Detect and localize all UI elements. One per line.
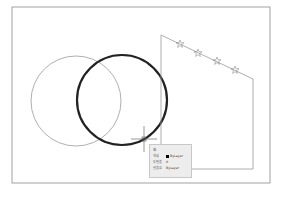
star-icon bbox=[231, 66, 239, 73]
star-markers bbox=[176, 40, 239, 73]
drawing-frame bbox=[12, 7, 270, 183]
selected-thick-circle[interactable] bbox=[77, 55, 167, 145]
drawing-canvas[interactable] bbox=[0, 0, 285, 199]
tooltip-label: 선종류 bbox=[153, 165, 166, 171]
tooltip-value: ByLayer bbox=[166, 165, 179, 171]
rollover-tooltip: 원 색상 ByLayer 도면층 0 선종류 ByLayer bbox=[149, 144, 192, 178]
color-swatch-icon bbox=[166, 155, 169, 158]
tooltip-value: ByLayer bbox=[170, 153, 183, 159]
tooltip-row-linetype: 선종류 ByLayer bbox=[153, 165, 188, 171]
